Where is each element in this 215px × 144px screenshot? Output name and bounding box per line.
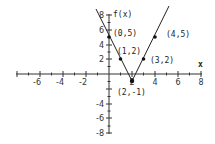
y-tick-label: -4 (96, 100, 104, 109)
function-graph: -6 -4 -2 2 4 6 8 8 6 4 2 -4 -6 -8 f(x) x… (0, 0, 215, 144)
x-tick-label: 8 (198, 78, 203, 87)
x-axis-title: x (198, 60, 203, 69)
x-tick-label: 4 (152, 78, 157, 87)
point-label: (0,5) (113, 29, 137, 38)
y-axis-title: f(x) (113, 10, 132, 19)
point-label: (3,2) (150, 56, 174, 65)
point-3-2 (142, 57, 146, 61)
y-tick-label: 6 (99, 26, 104, 35)
x-tick-label: -6 (33, 78, 41, 87)
function-curve (96, 6, 169, 81)
y-tick-label: 4 (99, 41, 104, 50)
point-0-5 (107, 35, 111, 39)
x-tick-label: 6 (175, 78, 180, 87)
point-1-2 (119, 57, 123, 61)
y-tick-label: -8 (96, 129, 104, 138)
y-tick-label: -6 (96, 114, 104, 123)
x-tick-label: -2 (79, 78, 87, 87)
point-label: (1,2) (117, 47, 141, 56)
point-2-neg1 (130, 79, 134, 83)
x-tick-label: -4 (56, 78, 64, 87)
point-4-5 (153, 35, 157, 39)
point-label: (4,5) (166, 30, 190, 39)
point-label: (2,-1) (117, 88, 146, 97)
y-tick-label: 2 (99, 55, 104, 64)
